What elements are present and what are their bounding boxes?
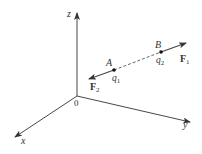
charge-q1-label: q1 [112, 73, 121, 85]
z-axis-label: z [66, 8, 71, 19]
point-b-label: B [155, 39, 161, 50]
force-f1-arrow [161, 43, 186, 52]
charge-q1-subscript: 1 [117, 77, 121, 85]
y-axis-label: y [182, 119, 188, 130]
x-axis [15, 96, 77, 137]
point-a-label: A [105, 57, 113, 68]
point-a-dot [112, 68, 116, 72]
x-axis-label: x [20, 135, 26, 146]
force-f2-arrow [89, 70, 114, 79]
force-f2-label: F2 [90, 81, 100, 94]
force-f1-label: F1 [180, 53, 190, 66]
y-axis [77, 96, 190, 122]
point-b-dot [159, 50, 163, 54]
origin-label: 0 [74, 98, 79, 108]
dashed-connector [114, 52, 161, 70]
charge-q2-label: q2 [156, 55, 165, 67]
coordinate-diagram: z x y 0 A q1 B q2 F1 F2 [0, 0, 202, 154]
force-f1-subscript: 1 [186, 58, 190, 66]
charge-q2-subscript: 2 [161, 59, 165, 67]
force-f2-subscript: 2 [96, 86, 100, 94]
